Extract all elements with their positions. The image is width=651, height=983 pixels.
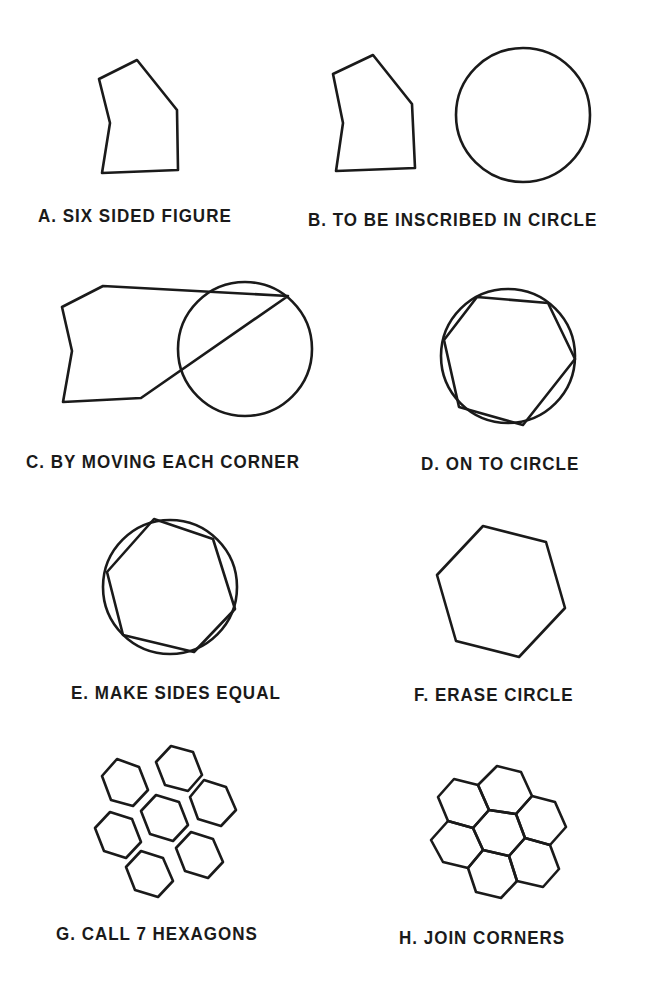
hexagon	[141, 795, 188, 841]
stretched-six-sided-figure	[62, 286, 288, 402]
hexagon	[126, 851, 173, 897]
hexagon	[95, 812, 141, 858]
panel-h-figure	[431, 766, 566, 898]
hexagon	[438, 779, 489, 828]
caption-h: H. JOIN CORNERS	[399, 929, 565, 950]
panel-c-figure	[62, 282, 312, 416]
caption-f: F. ERASE CIRCLE	[414, 686, 574, 707]
diagram-canvas	[0, 0, 651, 983]
panel-b-figure	[333, 48, 590, 182]
hexagon	[190, 780, 236, 826]
circle	[441, 289, 575, 423]
hexagon	[156, 746, 202, 791]
panel-g-figure	[95, 746, 236, 897]
regular-hexagon	[437, 526, 565, 657]
panel-f-figure	[437, 526, 565, 657]
hexagon	[176, 832, 223, 878]
circle	[178, 282, 312, 416]
caption-a: A. SIX SIDED FIGURE	[38, 207, 232, 228]
caption-c: C. BY MOVING EACH CORNER	[26, 453, 300, 474]
caption-g: G. CALL 7 HEXAGONS	[56, 925, 258, 946]
hexagon	[102, 759, 148, 806]
caption-b: B. TO BE INSCRIBED IN CIRCLE	[308, 211, 597, 232]
circle	[456, 48, 590, 182]
caption-e: E. MAKE SIDES EQUAL	[71, 684, 281, 705]
hexagon	[468, 850, 517, 898]
panel-e-figure	[103, 519, 237, 654]
panel-d-figure	[441, 289, 575, 425]
caption-d: D. ON TO CIRCLE	[421, 455, 579, 476]
panel-a-figure	[99, 60, 178, 173]
hexagon	[473, 810, 525, 856]
six-sided-figure	[99, 60, 178, 173]
six-sided-figure	[333, 55, 415, 171]
